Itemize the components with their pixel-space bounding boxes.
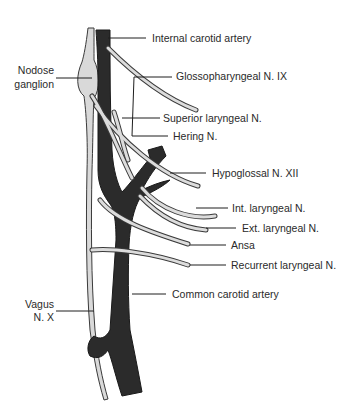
- label-nodose-ganglion-line2: ganglion: [6, 78, 54, 91]
- label-int-laryngeal-nerve: Int. laryngeal N.: [232, 202, 306, 215]
- label-ext-laryngeal-nerve: Ext. laryngeal N.: [242, 222, 319, 235]
- label-ansa: Ansa: [231, 239, 255, 252]
- label-superior-laryngeal-nerve: Superior laryngeal N.: [163, 112, 262, 125]
- label-vagus-nerve-line1: Vagus: [6, 298, 54, 311]
- label-internal-carotid-artery: Internal carotid artery: [152, 32, 251, 45]
- label-hering-nerve: Hering N.: [173, 130, 217, 143]
- label-glossopharyngeal-nerve: Glossopharyngeal N. IX: [176, 70, 287, 83]
- label-nodose-ganglion-line1: Nodose: [6, 64, 54, 77]
- label-hypoglossal-nerve: Hypoglossal N. XII: [212, 167, 298, 180]
- label-recurrent-laryngeal-nerve: Recurrent laryngeal N.: [231, 259, 336, 272]
- label-common-carotid-artery: Common carotid artery: [172, 288, 279, 301]
- label-vagus-nerve-line2: N. X: [6, 311, 54, 324]
